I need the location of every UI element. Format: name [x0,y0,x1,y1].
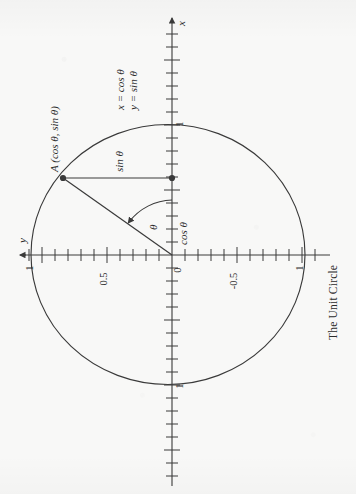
sin-label: sin θ [113,150,125,172]
tick-label-horizontal-negative-one: 1 [294,265,305,270]
horizontal-axis-label: y [16,238,28,244]
equation-y-label: y = sin θ [127,71,139,111]
vertical-axis-label: x [175,21,187,27]
tick-label-vertical-positive-one: 1 [174,121,185,126]
tick-label-negative-half: -0.5 [228,273,239,290]
equation-x-label: x = cos θ [114,69,126,111]
unit-circle-figure: x y 0 0.5 -0.5 1 1 1 1 A (cos θ, sin θ) … [0,0,356,494]
figure-canvas: x y 0 0.5 -0.5 1 1 1 1 A (cos θ, sin θ) … [0,0,356,494]
point-a-label: A (cos θ, sin θ) [48,106,61,173]
angle-arc [129,200,172,222]
cos-label: cos θ [177,222,189,245]
tick-label-vertical-negative-one: 1 [174,383,185,388]
tick-label-origin: 0 [172,267,183,272]
tick-label-horizontal-positive-one: 1 [24,265,35,270]
figure-caption: The Unit Circle [327,265,339,340]
radius-segment [63,178,172,255]
point-foot-marker [169,175,175,181]
point-a-marker [60,175,66,181]
tick-label-positive-half: 0.5 [98,272,109,285]
angle-label: θ [147,224,159,230]
